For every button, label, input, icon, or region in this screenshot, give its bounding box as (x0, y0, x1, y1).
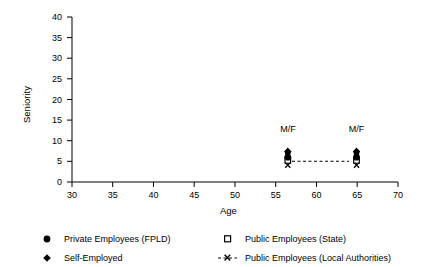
x-tick-label-65: 65 (345, 191, 369, 200)
legend-label-private-employees: Private Employees (FPLD) (64, 235, 171, 244)
data-cluster-age-65 (353, 147, 360, 167)
y-tick-marks (67, 17, 72, 182)
x-tick-label-40: 40 (142, 191, 166, 200)
legend-marker-open-square-icon (225, 236, 231, 242)
legend-label-public-local-authorities: Public Employees (Local Authorities) (245, 254, 391, 263)
y-tick-label-15: 15 (44, 116, 62, 125)
y-tick-label-20: 20 (44, 96, 62, 105)
y-axis-title: Seniority (22, 86, 32, 123)
legend-label-self-employed: Self-Employed (64, 254, 123, 263)
y-tick-label-0: 0 (44, 178, 62, 187)
marker-private-57-b (285, 150, 291, 156)
y-tick-label-5: 5 (44, 157, 62, 166)
marker-private-65-b (354, 150, 360, 156)
x-tick-label-35: 35 (101, 191, 125, 200)
x-tick-label-50: 50 (223, 191, 247, 200)
y-tick-label-35: 35 (44, 34, 62, 43)
y-tick-label-10: 10 (44, 137, 62, 146)
x-tick-label-70: 70 (386, 191, 410, 200)
x-tick-label-55: 55 (264, 191, 288, 200)
x-tick-label-45: 45 (182, 191, 206, 200)
x-tick-label-30: 30 (60, 191, 84, 200)
x-axis-title: Age (220, 206, 237, 216)
chart-figure: 40 35 30 25 20 15 10 5 0 30 35 40 45 50 … (0, 0, 428, 267)
legend-label-public-state: Public Employees (State) (245, 235, 346, 244)
y-tick-label-25: 25 (44, 75, 62, 84)
legend-marker-filled-circle-icon (44, 236, 51, 243)
x-tick-marks (72, 182, 398, 187)
x-tick-label-60: 60 (305, 191, 329, 200)
legend-marker-filled-diamond-icon (43, 254, 51, 262)
annotation-mf-age-57: M/F (272, 125, 304, 134)
y-tick-label-40: 40 (44, 13, 62, 22)
y-tick-label-30: 30 (44, 54, 62, 63)
data-cluster-age-57 (284, 147, 291, 167)
annotation-mf-age-65: M/F (341, 125, 373, 134)
legend-marker-cross-x-dashed-icon (218, 255, 237, 261)
